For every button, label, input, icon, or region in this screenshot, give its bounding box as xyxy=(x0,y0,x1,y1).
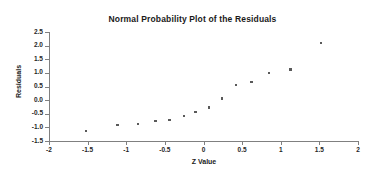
y-tick-label: 2.0 xyxy=(17,42,43,49)
data-point xyxy=(168,119,171,122)
x-axis-title: Z Value xyxy=(49,158,359,165)
x-tick-mark xyxy=(165,141,166,145)
y-tick-label: -1.0 xyxy=(17,124,43,131)
data-point xyxy=(154,120,157,123)
data-point xyxy=(194,111,197,114)
x-tick-label: -1.5 xyxy=(73,147,103,154)
x-tick-label: -0.5 xyxy=(150,147,180,154)
data-point xyxy=(250,81,253,84)
x-tick-label: 2 xyxy=(343,147,373,154)
normal-probability-plot: Normal Probability Plot of the Residuals… xyxy=(0,0,385,178)
y-tick-label: -1.5 xyxy=(17,138,43,145)
data-point xyxy=(183,115,186,118)
data-point xyxy=(320,42,323,45)
x-tick-mark xyxy=(358,141,359,145)
data-point xyxy=(289,68,292,71)
x-tick-mark xyxy=(49,141,50,145)
x-tick-label: 1 xyxy=(266,147,296,154)
data-point xyxy=(137,123,140,126)
x-tick-mark xyxy=(281,141,282,145)
y-tick-label: 2.5 xyxy=(17,29,43,36)
data-point xyxy=(235,84,238,87)
data-point xyxy=(268,72,271,75)
x-tick-label: -2 xyxy=(34,147,64,154)
x-tick-label: 1.5 xyxy=(304,147,334,154)
plot-area xyxy=(49,32,358,141)
x-tick-mark xyxy=(319,141,320,145)
data-point xyxy=(208,106,211,109)
y-axis-title: Residuals xyxy=(15,52,22,112)
x-tick-mark xyxy=(204,141,205,145)
x-tick-label: 0.5 xyxy=(227,147,257,154)
data-point xyxy=(116,124,119,127)
x-tick-mark xyxy=(242,141,243,145)
x-tick-mark xyxy=(88,141,89,145)
x-tick-label: -1 xyxy=(111,147,141,154)
x-tick-mark xyxy=(126,141,127,145)
data-point xyxy=(221,97,224,100)
data-point xyxy=(85,130,88,133)
x-tick-label: 0 xyxy=(189,147,219,154)
chart-title: Normal Probability Plot of the Residuals xyxy=(0,14,385,24)
